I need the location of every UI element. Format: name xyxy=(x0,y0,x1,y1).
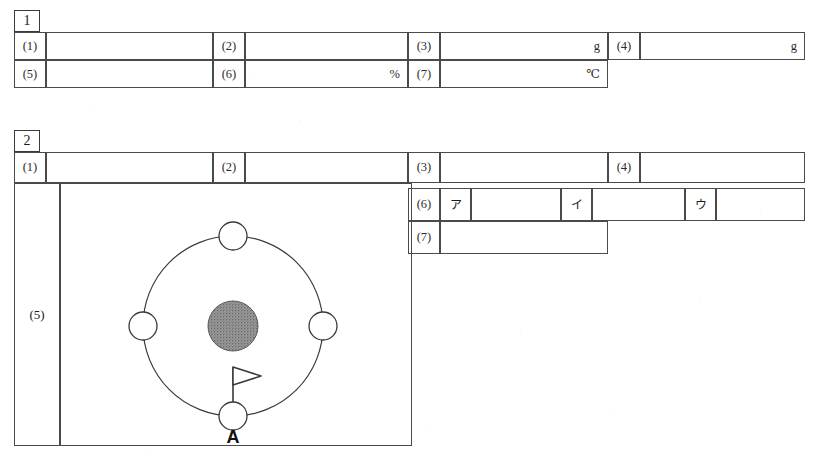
s2-q5-diagram-cell[interactable]: A xyxy=(60,183,412,446)
s1-r1-answer-3[interactable]: g xyxy=(440,32,608,60)
s1-r1-label-1-text: (1) xyxy=(23,40,38,53)
s1-r1-label-3-text: (3) xyxy=(417,40,432,53)
s2-r7-label-7-text: (7) xyxy=(417,231,432,244)
section-number-2: 2 xyxy=(24,134,31,148)
s2-r6-kana-u-text: ウ xyxy=(695,199,707,211)
s2-r6-kana-a-text: ア xyxy=(450,199,462,211)
paper-speck xyxy=(610,410,611,411)
earth-body xyxy=(208,301,258,351)
s2-r6-kana-a: ア xyxy=(440,188,471,221)
s1-r2-answer-6-unit: % xyxy=(390,68,400,81)
s2-r7-answer-7[interactable] xyxy=(440,221,608,254)
section-number-box-2: 2 xyxy=(14,130,40,152)
s2-r1-label-3-text: (3) xyxy=(417,161,432,174)
s1-r2-label-7: (7) xyxy=(408,60,440,88)
s1-r2-label-5-text: (5) xyxy=(23,68,38,81)
s2-r1-label-1-text: (1) xyxy=(23,161,38,174)
s2-r6-kana-i: イ xyxy=(561,188,592,221)
paper-speck xyxy=(90,110,91,111)
paper-speck xyxy=(700,300,701,301)
s1-r1-label-2-text: (2) xyxy=(222,40,237,53)
moon-bottom-label: A xyxy=(227,427,240,447)
s1-r2-label-7-text: (7) xyxy=(417,68,432,81)
s1-r2-answer-5[interactable] xyxy=(46,60,213,88)
moon-top xyxy=(219,222,247,250)
s2-r1-label-4-text: (4) xyxy=(617,161,632,174)
moon-bottom xyxy=(219,402,247,430)
moon-orbit-diagram: A xyxy=(61,184,413,447)
s2-r6-answer-a[interactable] xyxy=(471,188,561,221)
s1-r1-answer-2[interactable] xyxy=(245,32,408,60)
s2-r1-label-1: (1) xyxy=(14,152,46,183)
s2-r6-answer-u[interactable] xyxy=(716,188,805,221)
s2-q5-label-text: (5) xyxy=(29,308,44,321)
answer-sheet: 1 (1) (2) (3) g (4) g (5) (6) % (7) ℃ xyxy=(0,0,819,456)
paper-speck xyxy=(640,60,641,61)
s2-r1-answer-3[interactable] xyxy=(440,152,608,183)
paper-speck xyxy=(150,450,151,451)
s2-r1-label-3: (3) xyxy=(408,152,440,183)
s2-r1-answer-4[interactable] xyxy=(640,152,805,183)
paper-speck xyxy=(520,330,521,331)
s2-q5-label: (5) xyxy=(14,183,60,446)
s2-r1-label-2-text: (2) xyxy=(222,161,237,174)
s2-r1-label-4: (4) xyxy=(608,152,640,183)
s1-r1-label-3: (3) xyxy=(408,32,440,60)
moon-left xyxy=(129,312,157,340)
s1-r1-label-1: (1) xyxy=(14,32,46,60)
paper-speck xyxy=(430,430,431,431)
s1-r1-answer-3-unit: g xyxy=(594,40,600,53)
s1-r2-answer-6[interactable]: % xyxy=(245,60,408,88)
observer-flag-icon xyxy=(233,367,261,385)
section-number-1: 1 xyxy=(24,14,31,28)
s1-r2-label-6-text: (6) xyxy=(222,68,237,81)
moon-right xyxy=(309,312,337,340)
s1-r1-label-4-text: (4) xyxy=(617,40,632,53)
s1-r1-label-2: (2) xyxy=(213,32,245,60)
s1-r1-answer-1[interactable] xyxy=(46,32,213,60)
s1-r1-answer-4[interactable]: g xyxy=(640,32,805,60)
s2-r6-kana-u: ウ xyxy=(685,188,716,221)
paper-speck xyxy=(300,120,301,121)
s1-r2-label-6: (6) xyxy=(213,60,245,88)
s1-r2-answer-7-unit: ℃ xyxy=(586,68,600,81)
section-number-box-1: 1 xyxy=(14,10,40,32)
s1-r2-label-5: (5) xyxy=(14,60,46,88)
s1-r2-answer-7[interactable]: ℃ xyxy=(440,60,608,88)
s1-r1-answer-4-unit: g xyxy=(791,40,797,53)
s2-r1-answer-2[interactable] xyxy=(245,152,408,183)
s2-r1-answer-1[interactable] xyxy=(46,152,213,183)
s2-r6-kana-i-text: イ xyxy=(571,199,583,211)
s1-r1-label-4: (4) xyxy=(608,32,640,60)
s2-r6-answer-i[interactable] xyxy=(592,188,685,221)
s2-r1-label-2: (2) xyxy=(213,152,245,183)
s2-r6-label-6-text: (6) xyxy=(417,198,432,211)
